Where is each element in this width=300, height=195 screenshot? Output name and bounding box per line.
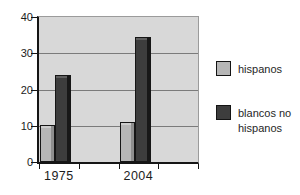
x-axis-tick-0 — [39, 164, 40, 169]
y-axis: 010203040 — [0, 0, 33, 195]
y-axis-tick-10 — [31, 126, 37, 127]
x-axis-label-1975: 1975 — [44, 169, 74, 183]
plot-area — [37, 16, 199, 164]
x-axis-tick-1 — [79, 164, 80, 169]
bar-blancos-no-hispanos-1975 — [55, 75, 71, 162]
y-axis-tick-20 — [31, 90, 37, 91]
y-axis-tick-30 — [31, 53, 37, 54]
bar-chart-image: { "chart_data": { "type": "bar", "title"… — [0, 0, 300, 195]
legend-label-hispanos: hispanos — [238, 61, 282, 76]
x-axis-tick-3 — [158, 164, 159, 169]
legend-label-blancos-no-hispanos: blancos no hispanos — [238, 105, 300, 135]
legend-swatch-hispanos — [216, 61, 231, 76]
y-axis-tick-0 — [31, 162, 37, 163]
legend-swatch-blancos-no-hispanos — [216, 105, 231, 120]
legend-item-blancos-no-hispanos: blancos no hispanos — [216, 105, 300, 135]
bar-blancos-no-hispanos-2004 — [135, 37, 151, 162]
gridline-30 — [39, 53, 198, 54]
bar-hispanos-1975 — [40, 125, 55, 162]
x-axis-label-2004: 2004 — [123, 169, 153, 183]
x-axis-tick-4 — [198, 164, 199, 169]
bar-hispanos-2004 — [120, 122, 135, 162]
y-axis-tick-40 — [31, 17, 37, 18]
chart-canvas: 010203040 hispanosblancos no hispanos 19… — [0, 0, 300, 195]
legend: hispanosblancos no hispanos — [216, 61, 300, 164]
x-axis-tick-2 — [119, 164, 120, 169]
legend-item-hispanos: hispanos — [216, 61, 300, 76]
